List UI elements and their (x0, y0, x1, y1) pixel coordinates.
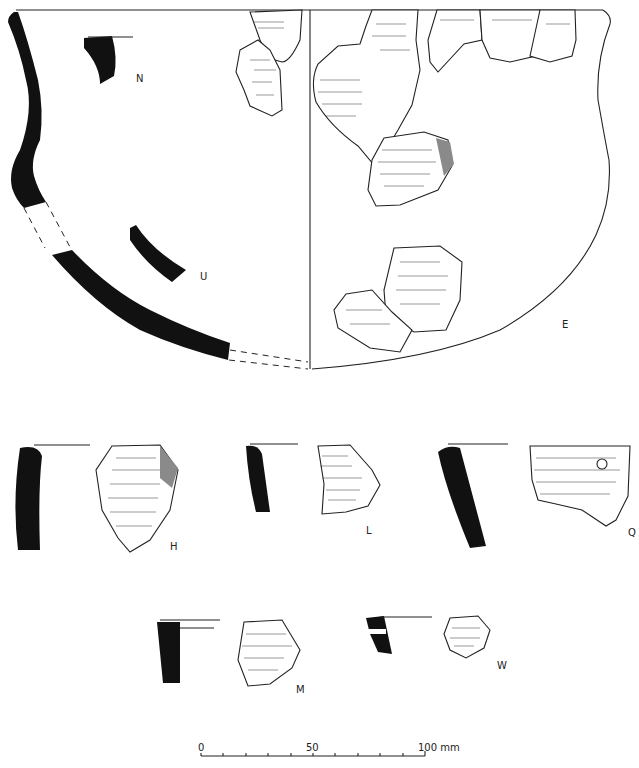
label-h: H (170, 541, 178, 552)
pottery-figure: N U E H L Q M W 0 50 100 mm (0, 0, 639, 768)
sherd-m (157, 620, 300, 686)
label-u: U (200, 271, 207, 282)
sherd-l (246, 444, 380, 514)
vessel-profile-upper (8, 12, 46, 208)
label-m: M (296, 684, 305, 695)
label-e: E (562, 319, 568, 330)
label-l: L (366, 525, 372, 536)
vessel-e-sherds-top-left (236, 10, 302, 116)
dashed-gap-outer (24, 208, 45, 248)
sherd-n-section (84, 36, 116, 84)
vessel-e-sherds (313, 10, 576, 352)
sherd-u-section (130, 225, 186, 282)
sherd-h (15, 445, 178, 552)
label-w: W (497, 660, 507, 671)
dashed-base-1 (230, 350, 308, 362)
sherd-q (438, 444, 630, 548)
vessel-profile-lower (52, 250, 230, 360)
dashed-base-2 (229, 360, 308, 369)
scale-label-0: 0 (198, 742, 204, 753)
scale-label-100mm: 100 mm (418, 742, 460, 753)
label-n: N (136, 73, 143, 84)
sherd-w (366, 616, 490, 658)
dashed-gap-inner (46, 202, 70, 247)
label-q: Q (628, 527, 636, 538)
scale-bar: 0 50 100 mm (198, 742, 460, 756)
scale-label-50: 50 (306, 742, 319, 753)
